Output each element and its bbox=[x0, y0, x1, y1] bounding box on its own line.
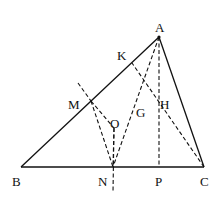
label-K: K bbox=[117, 48, 127, 63]
triangle-diagram: A B C K M O G H N P bbox=[0, 0, 220, 205]
label-P: P bbox=[155, 174, 162, 189]
side-AB bbox=[21, 37, 159, 167]
dashed-MN bbox=[91, 101, 113, 167]
label-B: B bbox=[12, 174, 21, 189]
n-vertical bbox=[113, 128, 114, 192]
label-O: O bbox=[110, 116, 119, 131]
label-N: N bbox=[98, 174, 108, 189]
label-H: H bbox=[160, 97, 169, 112]
perp-bisector-ext bbox=[78, 83, 91, 101]
point-A-dot bbox=[157, 35, 160, 38]
label-C: C bbox=[200, 174, 209, 189]
label-A: A bbox=[155, 20, 165, 35]
label-G: G bbox=[136, 105, 145, 120]
point-labels: A B C K M O G H N P bbox=[12, 20, 209, 189]
triangle-sides bbox=[21, 37, 204, 167]
label-M: M bbox=[68, 97, 80, 112]
